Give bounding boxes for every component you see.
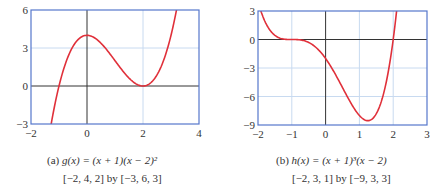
caption-a-window: [−2, 4, 2] by [−3, 6, 3] bbox=[63, 172, 162, 184]
caption-b-function: (b) h(x) = (x + 1)³(x − 2) bbox=[276, 154, 387, 166]
x-tick-label: 2 bbox=[390, 128, 396, 140]
x-tick-label: 2 bbox=[140, 127, 146, 139]
y-tick-label: 0 bbox=[250, 34, 256, 46]
caption-b-window: [−2, 3, 1] by [−9, 3, 3] bbox=[292, 172, 391, 184]
y-tick-label: −3 bbox=[243, 62, 255, 74]
y-tick-label: −3 bbox=[16, 118, 28, 130]
caption-a-function: (a) g(x) = (x + 1)(x − 2)² bbox=[47, 154, 157, 166]
x-tick-label: 0 bbox=[84, 127, 90, 139]
plot-b: −2−10123−9−6−303 bbox=[243, 0, 430, 140]
plot-frame bbox=[31, 10, 199, 124]
caption-b-label: (b) bbox=[276, 154, 289, 166]
caption-b-fn: h(x) = (x + 1)³(x − 2) bbox=[292, 154, 387, 166]
y-tick-label: 3 bbox=[250, 5, 256, 17]
x-tick-label: 4 bbox=[196, 127, 202, 139]
x-tick-label: −1 bbox=[286, 128, 298, 140]
x-tick-label: 1 bbox=[357, 128, 363, 140]
y-tick-label: 6 bbox=[23, 4, 29, 16]
caption-a-label: (a) bbox=[47, 154, 59, 166]
x-tick-label: 0 bbox=[323, 128, 329, 140]
y-tick-label: 0 bbox=[23, 80, 29, 92]
caption-a-fn: g(x) = (x + 1)(x − 2)² bbox=[62, 154, 157, 166]
function-curve bbox=[258, 0, 427, 121]
x-tick-label: 3 bbox=[424, 128, 430, 140]
y-tick-label: 3 bbox=[23, 42, 29, 54]
y-tick-label: −9 bbox=[243, 119, 255, 131]
y-tick-label: −6 bbox=[243, 91, 255, 103]
